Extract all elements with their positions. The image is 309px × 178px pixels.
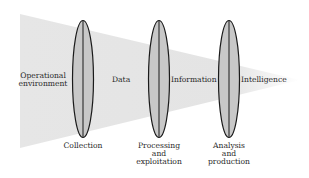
stage-label-analysis-production: Analysis and production [199, 142, 259, 166]
label-line: environment [14, 80, 72, 88]
label-line: exploitation [129, 158, 189, 166]
label-operational-environment: Operational environment [14, 72, 72, 88]
stage-label-processing-exploitation: Processing and exploitation [129, 142, 189, 166]
label-data: Data [112, 76, 130, 84]
intelligence-process-diagram: Operational environment Data Information… [0, 0, 309, 178]
lens-collection [73, 21, 94, 138]
label-information: Information [171, 76, 217, 84]
lens-processing-exploitation [149, 21, 170, 138]
label-line: Collection [53, 142, 113, 150]
stage-label-collection: Collection [53, 142, 113, 150]
label-line: production [199, 158, 259, 166]
lens-analysis-production [219, 21, 240, 138]
label-intelligence: Intelligence [241, 76, 287, 84]
